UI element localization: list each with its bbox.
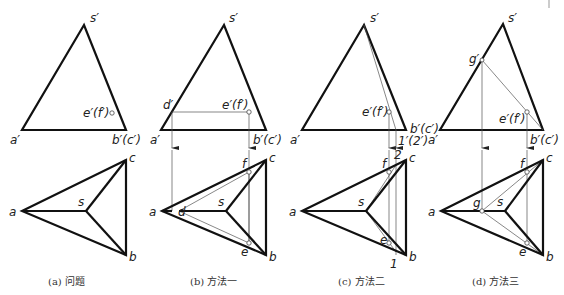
top-view-d: a g s f e c b <box>428 150 554 264</box>
label-a: a <box>9 205 16 219</box>
label-a: a <box>428 205 435 219</box>
point-e-f-prime <box>525 110 529 114</box>
label-a-prime: a′ <box>10 133 20 147</box>
caption-a: (a) 问题 <box>48 275 85 287</box>
label-d-prime: d′ <box>163 98 174 112</box>
point-f <box>247 170 251 174</box>
label-s: s <box>358 195 364 209</box>
panel-d: s′ g′ e′(f′) a′ b′(c′) a g s f e c b ( <box>428 0 559 287</box>
label-g-prime: g′ <box>469 52 480 66</box>
label-e-f-prime: e′(f′) <box>362 105 388 119</box>
label-b-c-prime: b′(c′) <box>253 133 282 147</box>
panel-c: s′ e′(f′) 1′(2′) a′ b′(c′) a s f 2 e 1 c… <box>289 11 439 287</box>
label-1: 1 <box>390 257 398 271</box>
label-d: d <box>178 205 186 219</box>
edge-sc <box>86 160 126 211</box>
front-triangle <box>302 25 406 130</box>
panel-b: s′ d′ e′(f′) a′ b′(c′) a d s f e c b (b)… <box>149 11 282 287</box>
point-e <box>387 241 391 245</box>
caption-c: (c) 方法二 <box>338 275 385 287</box>
label-s-prime: s′ <box>229 11 238 25</box>
label-a-prime: a′ <box>428 133 438 147</box>
label-b: b <box>546 250 554 264</box>
label-c: c <box>546 151 553 165</box>
front-view-c: s′ e′(f′) 1′(2′) a′ b′(c′) <box>290 11 439 148</box>
label-b: b <box>269 250 277 264</box>
label-s: s <box>218 195 224 209</box>
label-e: e <box>380 233 387 247</box>
label-e-f-prime: e′(f′) <box>222 98 248 112</box>
label-a-prime: a′ <box>290 133 300 147</box>
top-triangle <box>302 160 406 255</box>
front-view-a: s′ a′ b′(c′) e′(f′) <box>10 11 141 147</box>
label-a-prime: a′ <box>150 133 160 147</box>
label-g: g <box>473 196 481 210</box>
point-e-f-prime <box>110 111 114 115</box>
label-e: e <box>241 245 248 259</box>
top-view-c: a s f 2 e 1 c b <box>289 148 417 271</box>
label-s: s <box>497 195 503 209</box>
label-a: a <box>289 205 296 219</box>
label-a: a <box>149 205 156 219</box>
label-c: c <box>409 151 416 165</box>
label-b-c-prime: b′(c′) <box>112 133 141 147</box>
label-b: b <box>129 250 137 264</box>
label-2: 2 <box>394 148 402 162</box>
label-c: c <box>129 151 136 165</box>
label-e: e <box>519 245 526 259</box>
label-s-prime: s′ <box>508 11 517 25</box>
projection-diagram: s′ a′ b′(c′) e′(f′) a s c b (a) 问题 s′ d′… <box>0 0 564 295</box>
label-1-2-prime: 1′(2′) <box>398 134 428 148</box>
label-s-prime: s′ <box>90 11 99 25</box>
label-b-c-prime: b′(c′) <box>530 133 559 147</box>
label-b: b <box>409 250 417 264</box>
panel-a: s′ a′ b′(c′) e′(f′) a s c b (a) 问题 <box>9 11 141 287</box>
top-view-a: a s c b <box>9 151 137 264</box>
label-e-f-prime: e′(f′) <box>499 112 525 126</box>
caption-b: (b) 方法一 <box>190 275 237 287</box>
label-e-f-prime: e′(f′) <box>83 106 109 120</box>
label-c: c <box>269 151 276 165</box>
top-view-b: a d s f e c b <box>149 150 277 264</box>
point-f <box>525 170 529 174</box>
point-f <box>387 170 391 174</box>
label-s-prime: s′ <box>370 11 379 25</box>
front-view-b: s′ d′ e′(f′) a′ b′(c′) <box>150 11 282 148</box>
label-s: s <box>78 195 84 209</box>
top-triangle <box>22 160 126 255</box>
front-view-d: s′ g′ e′(f′) a′ b′(c′) <box>428 0 559 148</box>
point-g-prime <box>480 58 484 62</box>
edge-sb <box>86 211 126 255</box>
caption-d: (d) 方法三 <box>472 275 519 287</box>
